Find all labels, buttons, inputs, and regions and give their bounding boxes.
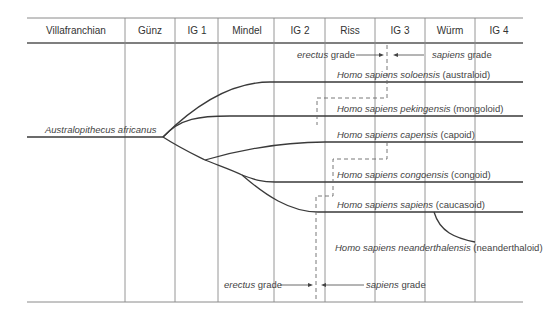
hominid-phylogeny-diagram: Villafranchian Günz IG 1 Mindel IG 2 Ris… — [0, 0, 555, 320]
arrow-left-icon — [321, 283, 326, 287]
column-dividers — [125, 18, 475, 302]
arrow-left-icon — [393, 53, 398, 57]
header-riss: Riss — [340, 25, 359, 36]
lineage-label-sapiens: Homo sapiens sapiens (caucasoid) — [337, 199, 485, 210]
bottom-sapiens-grade-label: sapiens grade — [366, 279, 426, 290]
header-gunz: Günz — [138, 25, 162, 36]
arrow-right-icon — [379, 53, 384, 57]
header-ig3: IG 3 — [391, 25, 410, 36]
header-wurm: Würm — [437, 25, 464, 36]
top-grade-annotations: erectus grade sapiens grade — [297, 49, 492, 60]
period-headers: Villafranchian Günz IG 1 Mindel IG 2 Ris… — [46, 25, 509, 36]
bottom-erectus-grade-label: erectus grade — [224, 279, 282, 290]
lineage-label-congoensis: Homo sapiens congoensis (congoid) — [337, 169, 491, 180]
header-ig2: IG 2 — [291, 25, 310, 36]
lineage-label-neanderthalensis: Homo sapiens neanderthalensis (neanderth… — [335, 242, 543, 253]
lineage-label-capensis: Homo sapiens capensis (capoid) — [337, 129, 475, 140]
top-sapiens-grade-label: sapiens grade — [432, 49, 492, 60]
header-villafranchian: Villafranchian — [46, 25, 106, 36]
header-mindel: Mindel — [232, 25, 261, 36]
lineage-label-pekingensis: Homo sapiens pekingensis (mongoloid) — [337, 103, 503, 114]
lineage-label-soloensis: Homo sapiens soloensis (australoid) — [337, 69, 490, 80]
header-ig4: IG 4 — [490, 25, 509, 36]
root-label: Australopithecus africanus — [44, 124, 157, 135]
lineage-labels: Homo sapiens soloensis (australoid) Homo… — [335, 69, 543, 253]
arrow-right-icon — [308, 283, 313, 287]
header-ig1: IG 1 — [188, 25, 207, 36]
branch-neanderthalensis — [434, 212, 475, 242]
top-erectus-grade-label: erectus grade — [297, 49, 355, 60]
